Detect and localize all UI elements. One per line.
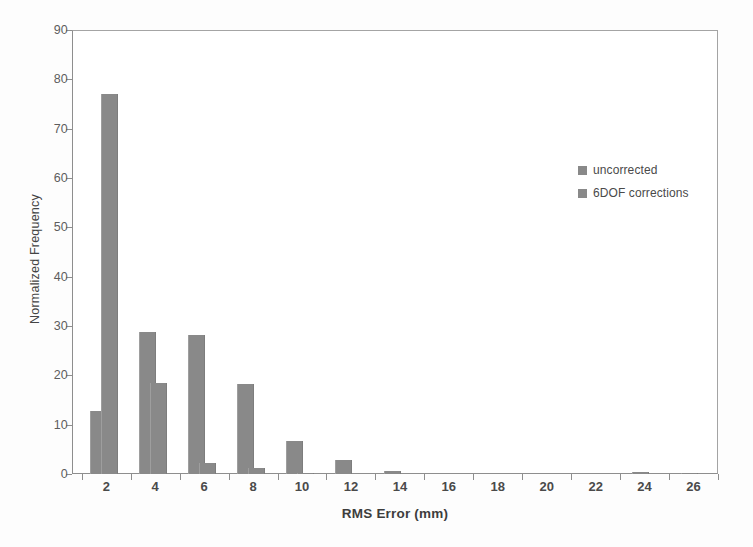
chart-figure: 0102030405060708090 Normalized Frequency… (0, 0, 753, 547)
bar (286, 441, 303, 474)
x-tick-label: 8 (233, 479, 273, 494)
bar (335, 460, 352, 474)
bar (199, 463, 216, 474)
x-tick-mark (718, 474, 719, 480)
x-tick-label: 4 (135, 479, 175, 494)
x-tick-label: 18 (478, 479, 518, 494)
x-tick-label: 12 (331, 479, 371, 494)
x-tick-label: 2 (86, 479, 126, 494)
x-tick-label: 14 (380, 479, 420, 494)
x-tick-label: 24 (625, 479, 665, 494)
y-tick-label: 90 (22, 23, 68, 37)
x-tick-label: 26 (674, 479, 714, 494)
plot-area (72, 30, 718, 474)
bar (237, 384, 254, 474)
x-tick-label: 20 (527, 479, 567, 494)
y-tick-label: 70 (22, 122, 68, 136)
legend-label: uncorrected (593, 163, 657, 177)
x-axis-tick-labels: 2468101214161820222426 (72, 479, 718, 501)
x-tick-label: 16 (429, 479, 469, 494)
y-tick-label: 20 (22, 368, 68, 382)
legend-item: uncorrected (578, 163, 689, 177)
bar (188, 335, 205, 474)
legend-swatch-icon (578, 166, 587, 175)
y-axis-title: Normalized Frequency (28, 149, 42, 369)
x-tick-label: 6 (184, 479, 224, 494)
bar (150, 383, 167, 474)
bar (101, 94, 118, 474)
legend-item: 6DOF corrections (578, 186, 689, 200)
legend-swatch-icon (578, 189, 587, 198)
x-tick-label: 22 (576, 479, 616, 494)
y-tick-label: 0 (22, 467, 68, 481)
x-tick-label: 10 (282, 479, 322, 494)
chart-legend: uncorrected6DOF corrections (578, 163, 689, 200)
legend-label: 6DOF corrections (593, 186, 689, 200)
x-axis-title: RMS Error (mm) (72, 506, 718, 521)
y-tick-label: 80 (22, 72, 68, 86)
y-tick-label: 10 (22, 418, 68, 432)
